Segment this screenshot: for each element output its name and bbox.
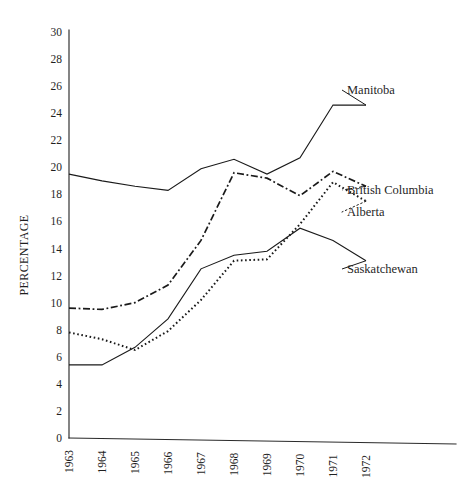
y-tick-label: 12	[51, 270, 63, 282]
y-tick-label: 18	[51, 188, 63, 200]
x-tick-label: 1965	[129, 451, 141, 474]
y-tick-label: 16	[51, 215, 63, 227]
y-tick-label: 26	[51, 80, 63, 92]
y-tick-label: 24	[51, 107, 63, 119]
series-label-alberta: Alberta	[347, 205, 385, 219]
y-tick-label: 2	[56, 405, 62, 417]
series-label-british-columbia: British Columbia	[347, 183, 434, 197]
y-tick-label: 20	[51, 161, 63, 173]
chart-canvas: 024681012141618202224262830 196319641965…	[0, 0, 462, 504]
y-axis-title: PERCENTAGE	[17, 214, 31, 295]
series-label-saskatchewan: Saskatchewan	[347, 262, 419, 276]
x-tick-label: 1969	[261, 453, 273, 476]
y-tick-label: 22	[51, 134, 63, 146]
y-tick-label: 6	[56, 351, 62, 363]
y-tick-label: 30	[51, 26, 63, 38]
y-tick-label: 14	[51, 243, 63, 255]
x-axis-tick-labels: 1963196419651966196719681969197019711972	[63, 450, 372, 478]
y-tick-label: 8	[56, 324, 62, 336]
series-labels: ManitobaBritish ColumbiaAlbertaSaskatche…	[347, 83, 434, 276]
x-axis-line	[69, 438, 456, 444]
x-tick-label: 1964	[96, 450, 108, 473]
series-line-british-columbia	[69, 171, 366, 309]
series-line-manitoba	[69, 105, 366, 190]
x-tick-label: 1970	[294, 454, 306, 477]
y-tick-label: 0	[56, 432, 62, 444]
series-lines	[69, 105, 366, 365]
x-tick-label: 1972	[360, 455, 372, 478]
series-line-saskatchewan	[69, 228, 366, 365]
x-tick-label: 1967	[195, 452, 207, 475]
line-chart: 024681012141618202224262830 196319641965…	[0, 0, 462, 504]
x-tick-label: 1963	[63, 450, 75, 473]
x-tick-label: 1968	[228, 453, 240, 476]
y-tick-label: 10	[51, 297, 63, 309]
x-tick-label: 1971	[327, 454, 339, 477]
y-tick-label: 28	[51, 53, 63, 65]
y-tick-label: 4	[56, 378, 62, 390]
x-tick-label: 1966	[162, 451, 174, 474]
series-leader-lines	[342, 90, 366, 269]
series-label-manitoba: Manitoba	[347, 83, 395, 97]
y-axis-tick-labels: 024681012141618202224262830	[51, 26, 63, 444]
